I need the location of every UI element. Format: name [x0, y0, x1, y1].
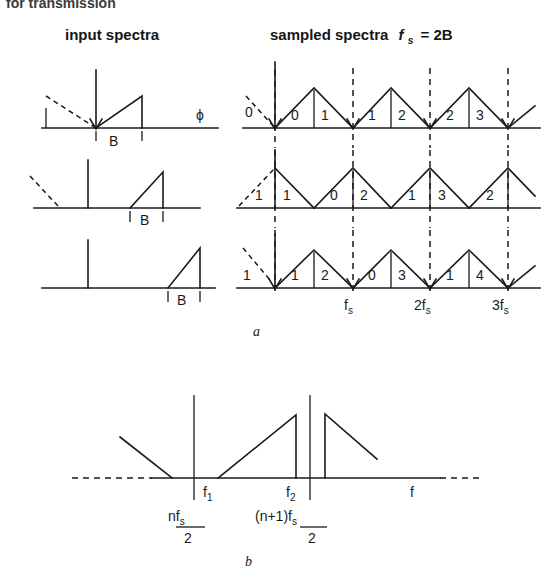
tick-f2-subscript: 2 — [290, 492, 296, 503]
axis-tick-2fs-symbol: 2f — [414, 297, 426, 313]
top-clipped-text: for transmission — [6, 0, 116, 11]
heading-fs-subscript: s — [408, 35, 414, 46]
label-n0: 0 — [291, 107, 299, 123]
heading-sampled-spectra: sampled spectra f s = 2B — [270, 26, 453, 47]
label-outer: 1 — [243, 267, 251, 283]
label-outer: 0 — [245, 104, 253, 120]
dashed-image-ramp — [30, 176, 58, 206]
label-n0: 1 — [283, 187, 291, 203]
axis-tick-2fs-subscript: s — [426, 305, 431, 316]
svg-text:sampled spectra f: sampled spectra f s = 2B — [270, 26, 453, 47]
dashed-image-ramp — [46, 96, 96, 128]
label-n3: 1 — [408, 187, 416, 203]
label-n2: 1 — [368, 107, 376, 123]
axis-tick-3fs: 3fs — [492, 297, 509, 316]
axis-tick-fs: fs — [344, 297, 353, 316]
label-n3: 3 — [398, 267, 406, 283]
triangle-4 — [469, 168, 535, 208]
fraction-nfs-over-2: nfs 2 — [168, 508, 205, 546]
figure-root: for transmission input spectra sampled s… — [0, 0, 547, 580]
main-ramp — [218, 415, 296, 478]
heading-input-spectra: input spectra — [65, 26, 160, 43]
fraction-left-numerator: nfs — [168, 508, 185, 527]
label-n5: 4 — [476, 267, 484, 283]
input-spectrum-row-2: B — [30, 160, 200, 228]
tick-f1-subscript: 1 — [207, 492, 213, 503]
phi-label: ϕ — [196, 107, 204, 123]
heading-fs-symbol: f — [399, 26, 406, 43]
axis-tick-3fs-symbol: 3f — [492, 297, 504, 313]
heading-sampled-text: sampled spectra — [270, 26, 389, 43]
ramp-triangle — [168, 248, 200, 288]
fraction-right-num-main: (n+1)f — [255, 508, 292, 524]
fraction-left-num-subscript: s — [180, 516, 185, 527]
ramp-triangle — [130, 172, 163, 208]
label-n2: 2 — [360, 187, 368, 203]
axis-tick-3fs-subscript: s — [504, 305, 509, 316]
sampled-spectrum-row-3: 1 1 2 0 3 1 4 fs 2fs 3fs — [237, 230, 540, 316]
axis-tick-fs-subscript: s — [348, 305, 353, 316]
label-n4: 3 — [438, 187, 446, 203]
label-n5: 2 — [486, 187, 494, 203]
label-n1: 2 — [321, 267, 329, 283]
label-n1: 0 — [330, 187, 338, 203]
axis-tick-2fs: 2fs — [414, 297, 431, 316]
triangle-1-down — [275, 168, 314, 208]
trailing-slope — [508, 266, 535, 288]
band-label-B: B — [109, 133, 118, 149]
band-label-B: B — [140, 212, 149, 228]
fraction-left-denominator: 2 — [184, 530, 192, 546]
fraction-n1fs-over-2: (n+1)fs 2 — [255, 508, 327, 546]
input-spectrum-row-3: B — [42, 240, 215, 308]
input-spectrum-row-1: B ϕ — [42, 70, 218, 149]
tick-label-f1: f1 — [203, 484, 213, 503]
sampled-spectrum-row-2: 1 1 0 2 1 3 2 — [237, 150, 540, 228]
trailing-slope — [508, 106, 535, 128]
panel-a-label: a — [253, 324, 260, 339]
panel-b: f1 f2 f nfs 2 (n+1)fs 2 — [72, 395, 480, 546]
tick-label-f2: f2 — [286, 484, 296, 503]
band-label-B: B — [177, 292, 186, 308]
label-n0: 1 — [291, 267, 299, 283]
fraction-right-numerator: (n+1)fs — [255, 508, 297, 527]
panel-b-label: b — [245, 554, 252, 569]
label-n3: 2 — [398, 107, 406, 123]
label-n4: 1 — [446, 267, 454, 283]
fraction-right-denominator: 2 — [308, 530, 316, 546]
label-outer: 1 — [255, 187, 263, 203]
label-n4: 2 — [446, 107, 454, 123]
heading-fs-equation: = 2B — [420, 26, 452, 43]
fraction-right-num-subscript: s — [292, 516, 297, 527]
label-n1: 1 — [321, 107, 329, 123]
right-ramp — [325, 414, 377, 478]
ramp-triangle — [96, 96, 142, 128]
label-n5: 3 — [476, 107, 484, 123]
label-n2: 0 — [368, 267, 376, 283]
left-image-ramp — [120, 437, 172, 478]
axis-label-f: f — [410, 484, 414, 500]
fraction-left-num-main: nf — [168, 508, 180, 524]
sampled-spectrum-row-1: 0 0 1 1 2 2 3 — [243, 62, 540, 148]
